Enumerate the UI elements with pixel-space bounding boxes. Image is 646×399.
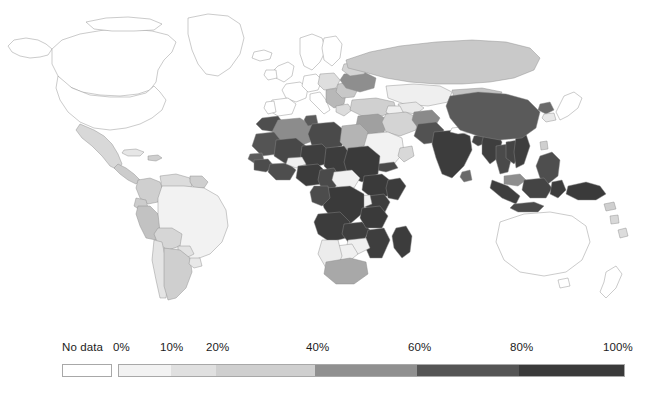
legend-tick-100: 100% [603, 340, 633, 354]
legend-tick-40: 40% [306, 340, 329, 354]
country-kazakhstan [386, 84, 452, 106]
legend-swatch-row [0, 364, 646, 377]
country-hispaniola [148, 155, 162, 161]
country-vietnam [514, 134, 530, 168]
country-somalia [386, 178, 406, 200]
country-norway-sweden [300, 34, 326, 70]
country-canada [52, 29, 176, 96]
country-united-kingdom [274, 62, 294, 82]
world-map-figure: No data 0% 10% 20% 40% 60% 80% 100% [0, 0, 646, 399]
country-canada-arctic [86, 17, 162, 31]
legend-segment-10-20 [171, 365, 216, 376]
country-portugal [264, 101, 276, 114]
legend-tick-labels: No data 0% 10% 20% 40% 60% 80% 100% [0, 340, 646, 358]
country-cuba [122, 149, 144, 156]
legend-label-no-data: No data [62, 340, 103, 354]
country-guyana-suriname [190, 176, 208, 188]
legend-gradient-bar [118, 364, 625, 377]
country-mexico [76, 124, 122, 170]
country-oman [398, 146, 414, 162]
country-north-korea [538, 102, 554, 114]
country-fiji [618, 228, 628, 238]
country-alaska [8, 38, 52, 58]
country-madagascar [392, 226, 412, 258]
country-greenland [188, 14, 244, 76]
country-finland [322, 36, 342, 66]
country-poland [318, 73, 340, 90]
country-japan [556, 92, 582, 120]
country-malaysia [504, 174, 526, 186]
country-new-zealand [600, 266, 622, 298]
country-solomon-islands [604, 202, 616, 211]
country-australia [496, 212, 590, 276]
legend-tick-60: 60% [408, 340, 431, 354]
legend-segment-80-100 [519, 365, 624, 376]
country-taiwan [540, 141, 548, 150]
world-map [0, 0, 646, 332]
legend-segment-0-10 [119, 365, 171, 376]
map-container [0, 0, 646, 332]
country-sri-lanka [460, 170, 472, 182]
legend-segment-20-40 [216, 365, 315, 376]
country-central-america [114, 164, 140, 184]
country-greece [336, 104, 352, 116]
legend: No data 0% 10% 20% 40% 60% 80% 100% [0, 336, 646, 386]
legend-no-data-swatch [62, 364, 112, 377]
legend-tick-0: 0% [113, 340, 130, 354]
legend-tick-10: 10% [160, 340, 183, 354]
caption-row [0, 391, 646, 399]
country-papua-new-guinea [566, 182, 606, 200]
legend-segment-40-60 [315, 365, 417, 376]
country-south-korea [542, 113, 556, 122]
country-south-africa [324, 258, 368, 284]
country-ireland [264, 70, 277, 80]
country-tasmania [558, 278, 570, 288]
legend-tick-80: 80% [510, 340, 533, 354]
country-indonesia-sulawesi [550, 180, 566, 198]
legend-segment-60-80 [417, 365, 520, 376]
legend-tick-20: 20% [206, 340, 229, 354]
country-vanuatu [610, 215, 619, 224]
country-iceland [252, 50, 272, 61]
